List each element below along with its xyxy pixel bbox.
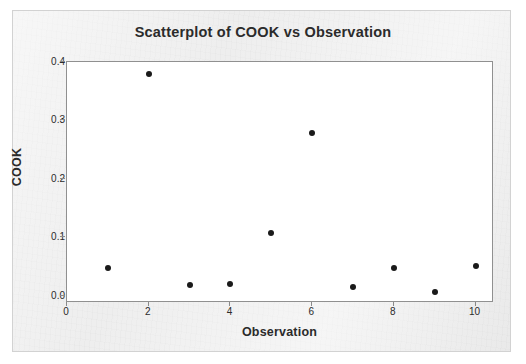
plot-frame (66, 61, 493, 302)
y-axis-title: COOK (10, 137, 24, 197)
data-point (146, 71, 152, 77)
y-tick-mark (60, 61, 65, 62)
data-point (350, 284, 356, 290)
chart-title: Scatterplot of COOK vs Observation (0, 24, 526, 40)
data-point (432, 289, 438, 295)
data-point (309, 130, 315, 136)
scatter-plot-area (67, 62, 492, 301)
y-tick-mark (60, 178, 65, 179)
y-tick-mark (60, 236, 65, 237)
x-tick-label: 0 (51, 306, 81, 317)
data-point (473, 263, 479, 269)
x-tick-label: 10 (460, 306, 490, 317)
y-tick-mark (60, 295, 65, 296)
x-tick-label: 6 (296, 306, 326, 317)
y-tick-mark (60, 119, 65, 120)
data-point (391, 265, 397, 271)
data-point (187, 282, 193, 288)
x-tick-label: 8 (378, 306, 408, 317)
x-tick-label: 2 (133, 306, 163, 317)
data-point (227, 281, 233, 287)
data-point (105, 265, 111, 271)
x-tick-label: 4 (214, 306, 244, 317)
x-axis-title: Observation (66, 325, 493, 339)
data-point (268, 230, 274, 236)
